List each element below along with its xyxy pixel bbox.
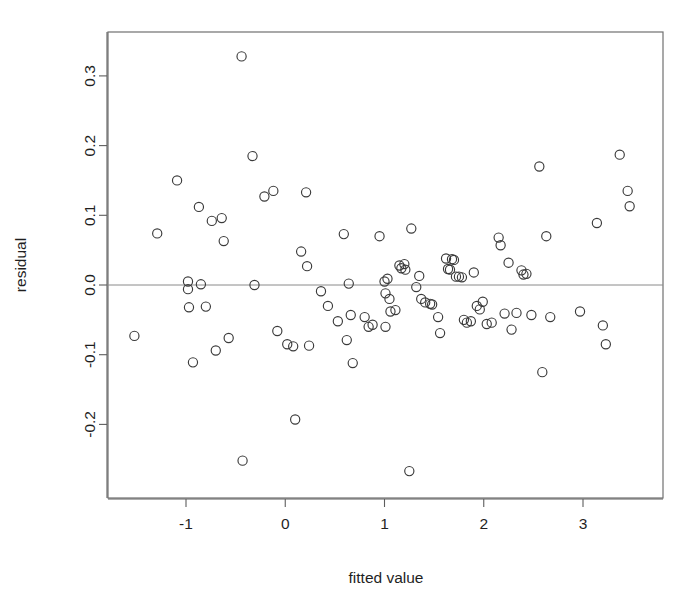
scatter-point xyxy=(592,218,601,227)
x-axis-tick-labels: -10123 xyxy=(179,515,587,532)
y-axis-title: residual xyxy=(12,238,29,292)
scatter-point xyxy=(194,202,203,211)
scatter-point xyxy=(417,294,426,303)
scatter-point xyxy=(381,322,390,331)
scatter-point xyxy=(504,258,513,267)
scatter-point xyxy=(527,310,536,319)
scatter-point xyxy=(302,262,311,271)
scatter-point xyxy=(224,333,233,342)
scatter-point xyxy=(291,415,300,424)
scatter-point xyxy=(535,162,544,171)
scatter-point xyxy=(153,229,162,238)
scatter-point xyxy=(260,192,269,201)
scatter-point xyxy=(196,280,205,289)
scatter-point xyxy=(512,308,521,317)
scatter-point xyxy=(184,303,193,312)
scatter-point xyxy=(273,326,282,335)
scatter-point xyxy=(575,307,584,316)
y-tick-label: 0.3 xyxy=(81,65,98,87)
x-tick-label: 3 xyxy=(579,515,588,532)
scatter-point xyxy=(297,247,306,256)
x-tick-label: -1 xyxy=(179,515,193,532)
scatter-point xyxy=(375,232,384,241)
scatter-point xyxy=(211,346,220,355)
x-tick-label: 0 xyxy=(281,515,290,532)
scatter-points xyxy=(130,52,634,476)
scatter-point xyxy=(219,236,228,245)
scatter-point xyxy=(316,287,325,296)
scatter-point xyxy=(601,340,610,349)
axis-tick-marks xyxy=(99,32,663,507)
scatter-point xyxy=(598,321,607,330)
scatter-point xyxy=(238,456,247,465)
scatter-point xyxy=(507,325,516,334)
scatter-point xyxy=(538,368,547,377)
scatter-point xyxy=(323,301,332,310)
scatter-point xyxy=(434,312,443,321)
y-tick-label: 0.1 xyxy=(81,205,98,227)
scatter-point xyxy=(348,358,357,367)
scatter-point xyxy=(237,52,246,61)
scatter-point xyxy=(542,232,551,241)
scatter-point xyxy=(248,151,257,160)
scatter-point xyxy=(435,328,444,337)
y-tick-label: 0.0 xyxy=(81,274,98,296)
scatter-point xyxy=(625,202,634,211)
plot-frame xyxy=(108,32,663,498)
scatter-point xyxy=(304,341,313,350)
plot-canvas: -10123 -0.2-0.10.00.10.20.3 fitted value… xyxy=(0,0,694,616)
scatter-point xyxy=(269,186,278,195)
scatter-point xyxy=(339,230,348,239)
y-axis-tick-labels: -0.2-0.10.00.10.20.3 xyxy=(81,65,98,438)
scatter-point xyxy=(360,312,369,321)
scatter-point xyxy=(405,467,414,476)
scatter-point xyxy=(346,310,355,319)
scatter-point xyxy=(283,340,292,349)
scatter-point xyxy=(130,331,139,340)
scatter-point xyxy=(188,358,197,367)
y-tick-label: -0.2 xyxy=(81,411,98,438)
scatter-point xyxy=(289,342,298,351)
x-tick-label: 2 xyxy=(479,515,488,532)
scatter-point xyxy=(342,335,351,344)
scatter-point xyxy=(546,312,555,321)
scatter-point xyxy=(172,176,181,185)
scatter-point xyxy=(201,302,210,311)
x-axis-title: fitted value xyxy=(349,569,424,586)
scatter-point xyxy=(333,317,342,326)
residual-plot-figure: -10123 -0.2-0.10.00.10.20.3 fitted value… xyxy=(0,0,694,616)
scatter-point xyxy=(407,224,416,233)
scatter-point xyxy=(623,186,632,195)
scatter-point xyxy=(615,150,624,159)
scatter-point xyxy=(344,279,353,288)
scatter-point xyxy=(412,282,421,291)
y-tick-label: -0.1 xyxy=(81,341,98,368)
x-tick-label: 1 xyxy=(380,515,389,532)
scatter-point xyxy=(469,268,478,277)
scatter-point xyxy=(415,271,424,280)
y-tick-label: 0.2 xyxy=(81,135,98,157)
scatter-point xyxy=(500,309,509,318)
scatter-point xyxy=(301,188,310,197)
scatter-point xyxy=(207,216,216,225)
scatter-point xyxy=(217,213,226,222)
